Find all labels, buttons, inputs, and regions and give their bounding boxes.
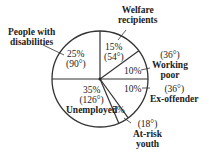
label-working-poor: (36°) Working poor bbox=[152, 50, 188, 80]
label-disabilities: People with disabilities bbox=[8, 27, 55, 47]
pct-working-poor: 10% bbox=[124, 66, 141, 76]
pct-text: 35% bbox=[66, 85, 117, 95]
label-text: Working bbox=[152, 60, 188, 70]
label-ex-offender: (36°) Ex-offender bbox=[150, 84, 199, 104]
pct-ex-offender: 10% bbox=[124, 84, 141, 94]
deg-text: (18°) bbox=[133, 119, 162, 129]
label-text: poor bbox=[152, 70, 188, 80]
label-text: Ex-offender bbox=[150, 94, 199, 104]
label-text: People with bbox=[8, 27, 55, 37]
pct-disabilities: 25% (90°) bbox=[66, 49, 86, 69]
deg-text: (36°) bbox=[152, 50, 188, 60]
pct-text: 25% bbox=[66, 49, 86, 59]
label-text: disabilities bbox=[8, 37, 55, 47]
label-text: Unemployed bbox=[66, 105, 117, 115]
label-text: recipients bbox=[118, 15, 157, 25]
deg-text: (126°) bbox=[66, 95, 117, 105]
label-text: Welfare bbox=[118, 5, 157, 15]
pct-unemployed: 35% (126°) Unemployed bbox=[66, 85, 117, 115]
deg-text: (90°) bbox=[66, 59, 86, 69]
deg-text: (54°) bbox=[104, 52, 124, 62]
label-at-risk-youth: (18°) At-risk youth bbox=[133, 119, 162, 149]
pct-welfare: 15% (54°) bbox=[104, 42, 124, 62]
label-text: At-risk bbox=[133, 129, 162, 139]
label-text: youth bbox=[133, 139, 162, 149]
pct-text: 15% bbox=[104, 42, 124, 52]
deg-text: (36°) bbox=[150, 84, 199, 94]
label-welfare: Welfare recipients bbox=[118, 5, 157, 25]
